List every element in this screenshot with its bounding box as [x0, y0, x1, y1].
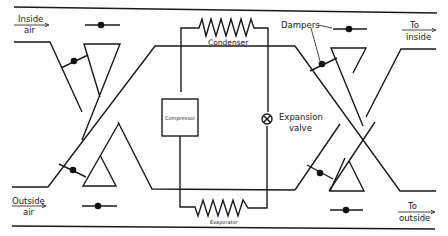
label-condenser: Condenser: [208, 38, 249, 47]
label-evaporator: Evaporator: [210, 219, 239, 226]
label-to-outside-1: To: [407, 201, 417, 211]
hvac-schematic: Inside air Outside air To inside To outs…: [0, 0, 448, 236]
label-expansion-valve-2: valve: [289, 123, 312, 133]
dampers-leader-1: [318, 25, 332, 28]
duct-bottom-wall: [12, 226, 435, 229]
label-to-inside-1: To: [409, 20, 419, 30]
evaporator-coil: [180, 126, 267, 216]
damper-top-left: [85, 22, 120, 29]
dampers-leader-2: [311, 28, 320, 61]
expansion-valve-icon: [262, 114, 272, 124]
label-outside-air-2: air: [23, 207, 35, 217]
label-outside-air-1: Outside: [12, 196, 45, 206]
label-inside-air-1: Inside: [18, 14, 43, 24]
label-compressor: Compressor: [165, 115, 196, 122]
duct-top-wall: [14, 7, 437, 13]
label-dampers: Dampers: [281, 20, 320, 30]
damper-top-right: [333, 26, 367, 33]
label-inside-air-2: air: [24, 25, 36, 35]
damper-right-upper: [310, 58, 337, 71]
label-to-inside-2: inside: [406, 32, 431, 42]
label-to-outside-2: outside: [399, 213, 430, 223]
damper-bottom-right: [330, 207, 363, 214]
damper-left-upper: [61, 55, 88, 68]
left-crossover-duct: [12, 42, 295, 190]
label-expansion-valve-1: Expansion: [279, 112, 323, 122]
damper-left-lower: [59, 164, 86, 177]
damper-bottom-left: [82, 203, 117, 210]
damper-right-lower: [307, 165, 333, 179]
condenser-coil: [181, 19, 268, 112]
diagram-canvas: Inside air Outside air To inside To outs…: [0, 0, 448, 236]
